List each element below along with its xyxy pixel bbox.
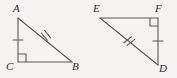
side-ed (100, 18, 158, 65)
geometry-figure: A C B E F D (0, 0, 177, 78)
vertex-label-c: C (6, 61, 13, 72)
vertex-label-d: D (159, 63, 167, 74)
vertex-label-b: B (72, 61, 79, 72)
vertex-label-a: A (13, 3, 20, 14)
triangle-abc (13, 18, 72, 62)
right-angle-marker-c (18, 54, 26, 62)
geometry-canvas (0, 0, 177, 78)
triangle-efd (100, 18, 163, 65)
vertex-label-f: F (155, 3, 162, 14)
right-angle-marker-f (150, 18, 158, 26)
vertex-label-e: E (93, 3, 100, 14)
